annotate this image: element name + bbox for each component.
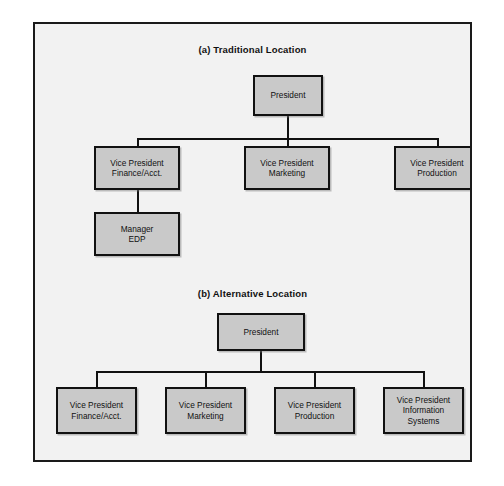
connector-drop-marketing-b [205,371,207,388]
connector-drop-information-systems-b [423,371,425,388]
node-vp-marketing-b[interactable]: Vice President Marketing [165,387,246,434]
connector-president-drop-a [287,116,289,140]
connector-drop-finance-b [96,371,98,388]
panel-a-heading: (a) Traditional Location [35,44,470,55]
org-chart-panel-b: (b) Alternative Location President Vice … [35,276,470,462]
node-manager-edp-a[interactable]: Manager EDP [94,212,180,256]
node-president-a[interactable]: President [253,75,323,116]
connector-president-drop-b [260,351,262,373]
org-chart-panel-a: (a) Traditional Location President Vice … [35,24,470,276]
node-label: Manager EDP [119,224,156,245]
node-label: Vice President Marketing [258,158,315,179]
connector-finance-to-edp-a [137,190,139,212]
node-vp-production-a[interactable]: Vice President Production [394,146,472,190]
node-label: President [241,327,280,337]
node-label: Vice President Information Systems [395,395,452,426]
node-vp-information-systems-b[interactable]: Vice President Information Systems [383,387,464,434]
panel-b-heading: (b) Alternative Location [35,288,470,299]
node-vp-production-b[interactable]: Vice President Production [274,387,355,434]
node-president-b[interactable]: President [217,313,305,351]
node-label: Vice President Production [408,158,465,179]
connector-drop-production-b [314,371,316,388]
node-vp-marketing-a[interactable]: Vice President Marketing [244,146,330,190]
node-label: President [268,90,307,100]
node-label: Vice President Finance/Acct. [68,400,125,421]
node-vp-finance-b[interactable]: Vice President Finance/Acct. [56,387,137,434]
node-label: Vice President Production [286,400,343,421]
connector-bus-b [96,371,423,373]
figure-frame: (a) Traditional Location President Vice … [33,22,472,462]
node-label: Vice President Marketing [177,400,234,421]
node-label: Vice President Finance/Acct. [108,158,165,179]
node-vp-finance-a[interactable]: Vice President Finance/Acct. [94,146,180,190]
